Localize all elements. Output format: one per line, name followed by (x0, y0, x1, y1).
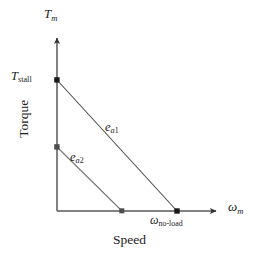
curve-ea1-symbol: e (105, 120, 111, 134)
y-axis-symbol-subscript: m (51, 13, 57, 23)
t-stall-symbol: T (11, 69, 18, 83)
curve-ea2-label: ea2 (70, 151, 84, 164)
y-axis-title: Torque (17, 83, 31, 155)
marker-ea2-end (119, 208, 124, 213)
x-axis-symbol-subscript: m (237, 206, 243, 216)
omega-no-load-subscript: no-load (158, 219, 182, 228)
marker-omega-no-load (174, 208, 179, 213)
curve-ea1-sub-subscript: 1 (115, 126, 119, 135)
x-axis-title: Speed (113, 233, 146, 247)
omega-no-load-label: ωno-load (150, 214, 183, 226)
torque-speed-figure: Tm ωm Tstall ωno-load ea1 ea2 Speed Torq… (0, 0, 264, 261)
marker-ea2-start (54, 144, 59, 149)
curve-ea2 (57, 147, 122, 211)
x-axis-symbol-label: ωm (228, 200, 243, 213)
curve-ea2-symbol: e (70, 150, 76, 164)
curve-ea2-sub-subscript: 2 (80, 156, 84, 165)
marker-t-stall (54, 77, 59, 82)
y-axis-symbol-label: Tm (44, 7, 57, 20)
plot-canvas (0, 0, 264, 261)
curve-ea1-label: ea1 (105, 121, 119, 134)
curve-ea1 (57, 80, 177, 211)
x-axis-symbol: ω (228, 199, 237, 214)
t-stall-label: Tstall (11, 70, 32, 83)
